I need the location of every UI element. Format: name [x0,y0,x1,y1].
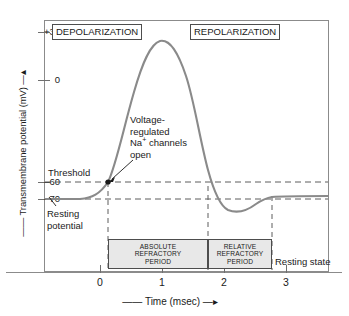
na-channels-line3: Na+ channels [130,137,187,149]
absolute-refractory-line3: PERIOD [145,258,171,266]
absolute-refractory-period-box: ABSOLUTE REFRACTORY PERIOD [108,239,208,269]
resting-potential-label: Resting potential [47,208,83,231]
relative-refractory-line2: REFRACTORY [217,250,264,258]
na-channels-line1: Voltage- [130,114,187,126]
threshold-label: Threshold [48,167,90,178]
absolute-refractory-line1: ABSOLUTE [140,243,176,251]
phase-label-depolarization: DEPOLARIZATION [52,24,142,40]
resting-potential-line2: potential [47,220,83,232]
resting-potential-line1: Resting [47,208,83,220]
absolute-refractory-line2: REFRACTORY [135,250,182,258]
action-potential-curve [46,41,328,212]
relative-refractory-period-box: RELATIVE REFRACTORY PERIOD [208,239,272,269]
na-channels-line3-element: Na [130,137,142,148]
na-channels-line3-rest: channels [146,137,187,148]
na-channels-line2: regulated [130,126,187,138]
relative-refractory-line1: RELATIVE [224,243,257,251]
na-channels-annotation: Voltage- regulated Na+ channels open [130,114,187,160]
relative-refractory-line3: PERIOD [227,258,253,266]
action-potential-figure: +30 0 –60 –70 —— Transmembrane potential… [0,0,349,316]
phase-label-repolarization: REPOLARIZATION [190,24,280,40]
resting-state-label: Resting state [275,256,330,267]
na-channels-line4: open [130,149,187,161]
